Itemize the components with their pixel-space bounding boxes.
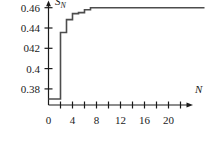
x-tick-label-5: 20 [163, 115, 174, 126]
x-axis-arrow-icon [187, 102, 194, 107]
y-tick-label-1: 0.44 [2, 23, 40, 34]
y-tick-label-3: 0.4 [2, 63, 40, 74]
y-axis-title-subscript: N [61, 1, 66, 10]
x-tick-label-3: 12 [115, 115, 126, 126]
x-tick-label-0: 0 [46, 115, 52, 126]
y-axis-arrow-icon [46, 1, 51, 7]
y-tick-label-2: 042 [2, 43, 40, 54]
chart-figure: 0.46 0.44 042 0.4 0.38 0 4 8 12 16 20 SN… [0, 0, 214, 143]
x-tick-label-2: 8 [94, 115, 100, 126]
y-axis-title: SN [55, 0, 66, 11]
step-curve-line [49, 8, 205, 99]
y-tick-label-4: 0.38 [2, 83, 40, 94]
x-axis-title: N [195, 84, 202, 95]
x-tick-label-4: 16 [139, 115, 150, 126]
x-tick-label-1: 4 [70, 115, 76, 126]
y-tick-label-0: 0.46 [2, 2, 40, 13]
